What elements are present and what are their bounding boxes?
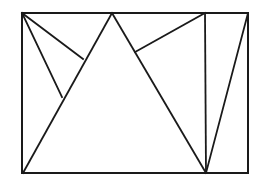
figure-background xyxy=(0,0,261,190)
figure-canvas: Rectangle subdivided by triangles xyxy=(0,0,261,190)
geometry-diagram: Rectangle subdivided by triangles xyxy=(0,0,261,190)
vertical-divider xyxy=(205,13,206,173)
